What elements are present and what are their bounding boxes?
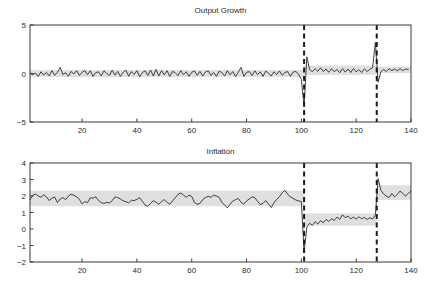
- axis-frame: [30, 163, 411, 262]
- x-tick-label: 60: [187, 266, 196, 275]
- x-tick-label: 20: [78, 126, 87, 135]
- x-tick-label: 40: [132, 266, 141, 275]
- x-tick-label: 40: [132, 126, 141, 135]
- x-tick-label: 120: [350, 266, 364, 275]
- confidence-band: [377, 185, 411, 200]
- panel-title: Output Growth: [194, 6, 246, 15]
- confidence-band: [304, 213, 377, 225]
- y-tick-label: −1: [17, 242, 27, 251]
- y-tick-label: 3: [22, 176, 27, 185]
- y-tick-label: −5: [17, 118, 27, 127]
- x-tick-label: 20: [78, 266, 87, 275]
- y-tick-label: −2: [17, 258, 27, 267]
- inflation-plot: 20406080100120140−2−101234Inflation: [0, 145, 431, 291]
- x-tick-label: 100: [295, 266, 309, 275]
- y-tick-label: 1: [22, 209, 27, 218]
- chart-panel-output-growth: 20406080100120140−505Output Growth: [0, 0, 431, 145]
- x-tick-label: 140: [404, 266, 418, 275]
- y-tick-label: 0: [22, 70, 27, 79]
- x-tick-label: 120: [350, 126, 364, 135]
- y-tick-label: 4: [22, 159, 27, 168]
- output-growth-plot: 20406080100120140−505Output Growth: [0, 0, 431, 145]
- x-tick-label: 100: [295, 126, 309, 135]
- y-tick-label: 2: [22, 192, 27, 201]
- x-tick-label: 60: [187, 126, 196, 135]
- figure-container: 20406080100120140−505Output Growth 20406…: [0, 0, 431, 291]
- chart-panel-inflation: 20406080100120140−2−101234Inflation: [0, 145, 431, 291]
- y-tick-label: 5: [22, 21, 27, 30]
- x-tick-label: 140: [404, 126, 418, 135]
- x-tick-label: 80: [242, 266, 251, 275]
- panel-title: Inflation: [206, 147, 234, 156]
- y-tick-label: 0: [22, 225, 27, 234]
- x-tick-label: 80: [242, 126, 251, 135]
